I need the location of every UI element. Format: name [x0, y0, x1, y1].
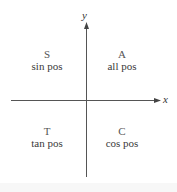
quadrant-description: cos pos	[87, 137, 157, 149]
x-axis-arrow-icon	[154, 98, 161, 103]
axes	[0, 0, 177, 192]
x-axis-label: x	[163, 93, 168, 105]
quadrant-letter: T	[12, 125, 82, 137]
quadrant-bottom-right: C cos pos	[87, 125, 157, 149]
quadrant-letter: C	[87, 125, 157, 137]
quadrant-description: tan pos	[12, 137, 82, 149]
cast-diagram: y x S sin pos A all pos T tan pos C cos …	[0, 0, 177, 192]
quadrant-letter: A	[87, 48, 157, 60]
quadrant-bottom-left: T tan pos	[12, 125, 82, 149]
quadrant-letter: S	[12, 48, 82, 60]
quadrant-top-right: A all pos	[87, 48, 157, 72]
quadrant-top-left: S sin pos	[12, 48, 82, 72]
y-axis-arrow-icon	[84, 22, 89, 29]
y-axis-label: y	[82, 9, 87, 21]
quadrant-description: all pos	[87, 60, 157, 72]
quadrant-description: sin pos	[12, 60, 82, 72]
